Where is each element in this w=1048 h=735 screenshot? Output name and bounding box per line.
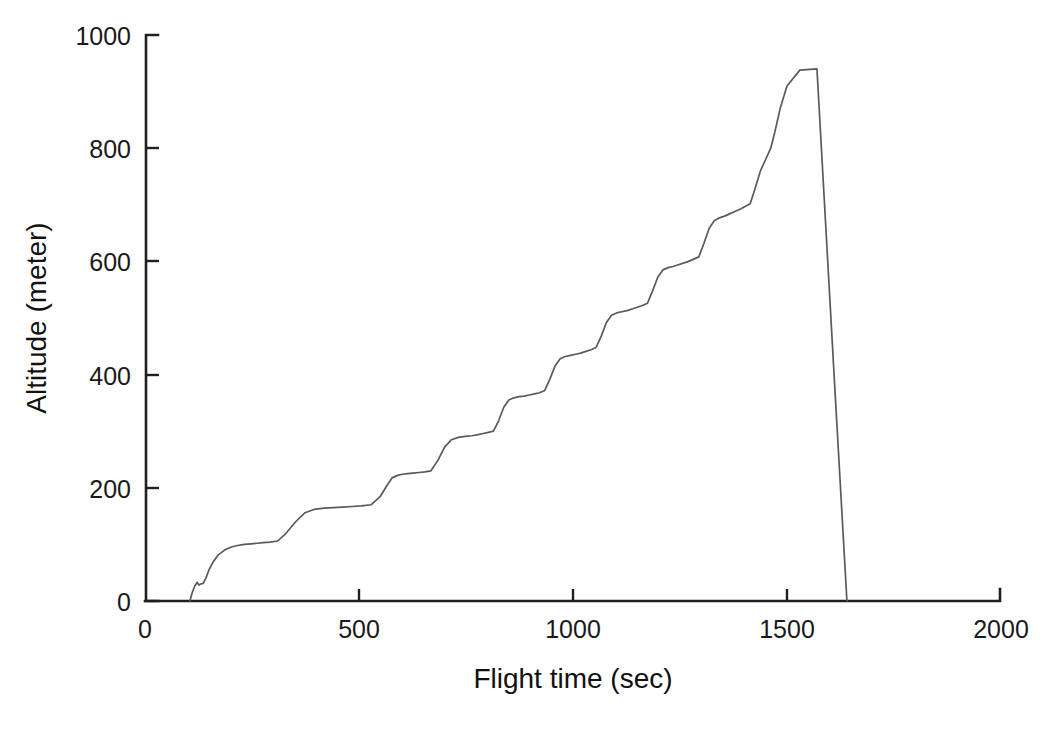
y-tick-label-800: 800	[89, 135, 131, 163]
x-tick-label-0: 0	[138, 615, 152, 643]
y-tick-label-600: 600	[89, 248, 131, 276]
y-tick-label-400: 400	[89, 362, 131, 390]
y-tick-label-200: 200	[89, 475, 131, 503]
x-tick-label-1500: 1500	[759, 615, 815, 643]
x-tick-label-2000: 2000	[973, 615, 1029, 643]
figure-root: 1000 800 600 400 200 0 0 500 1000 1500 2…	[0, 0, 1048, 735]
y-tick-label-1000: 1000	[75, 22, 131, 50]
plot-area-background	[145, 34, 1001, 602]
x-tick-label-500: 500	[338, 615, 380, 643]
x-tick-label-1000: 1000	[545, 615, 601, 643]
x-axis-title: Flight time (sec)	[473, 663, 672, 694]
figure-caption-strip	[0, 714, 1048, 735]
altitude-vs-flight-time-chart: 1000 800 600 400 200 0 0 500 1000 1500 2…	[0, 0, 1048, 700]
y-axis-title: Altitude (meter)	[21, 222, 52, 413]
y-tick-label-0: 0	[117, 588, 131, 616]
